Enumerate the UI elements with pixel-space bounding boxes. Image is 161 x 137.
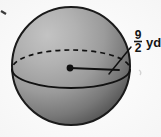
sphere-diagram-canvas: 9 2 yd xyxy=(0,0,161,137)
radius-fraction-denominator: 2 xyxy=(135,41,142,55)
radius-fraction-numerator: 9 xyxy=(135,28,142,42)
sphere-figure: 9 2 yd xyxy=(0,0,161,137)
radius-unit-label: yd xyxy=(146,35,161,50)
sphere-center-point xyxy=(67,65,74,72)
